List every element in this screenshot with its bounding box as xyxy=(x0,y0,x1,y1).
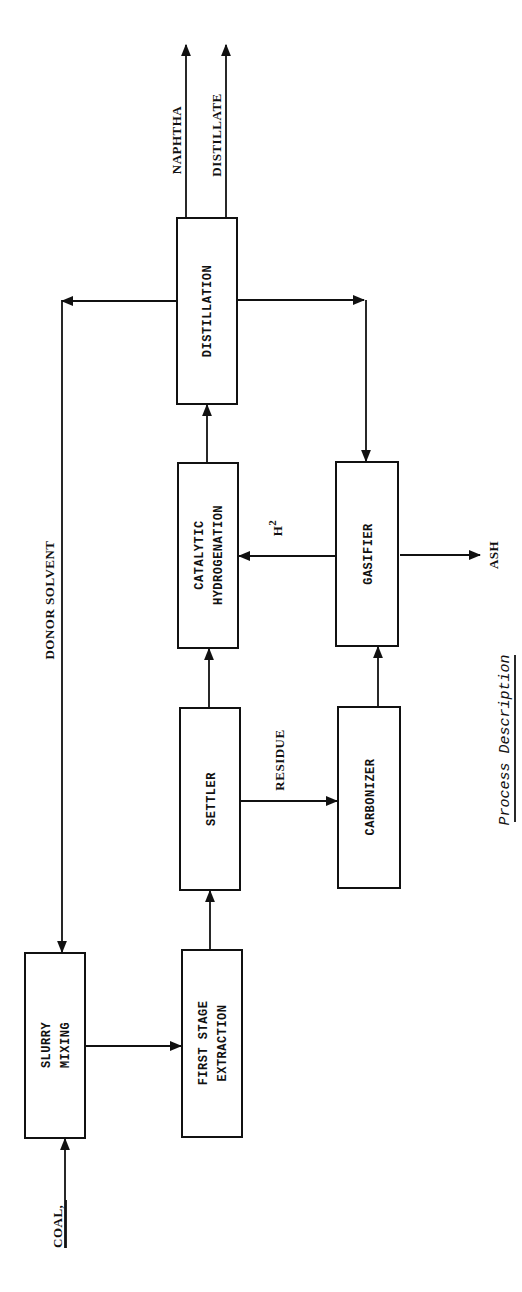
h2-symbol: H xyxy=(270,526,285,537)
unit-first-stage-extraction: FIRST STAGE EXTRACTION xyxy=(182,950,242,1137)
unit-label: DISTILLATION xyxy=(201,265,215,357)
unit-gasifier: GASIFIER xyxy=(336,462,398,646)
unit-label: GASIFIER xyxy=(362,523,376,585)
stream-label-distillate: DISTILLATE xyxy=(209,93,224,177)
stream-label-h2: H2 xyxy=(266,520,285,537)
stream-label-coal: COAL, xyxy=(50,1205,65,1248)
unit-label: EXTRACTION xyxy=(216,1004,230,1081)
unit-label: FIRST STAGE xyxy=(197,1001,211,1086)
process-flow-diagram: SLURRY MIXING FIRST STAGE EXTRACTION SET… xyxy=(0,0,522,1292)
unit-label: HYDROGENATION xyxy=(212,505,226,605)
unit-label: SETTLER xyxy=(205,772,219,826)
h2-subscript: 2 xyxy=(266,520,278,526)
unit-catalytic-hydrogenation: CATALYTIC HYDROGENATION xyxy=(178,463,238,648)
unit-label: SLURRY xyxy=(40,1022,54,1069)
unit-label: CATALYTIC xyxy=(193,520,207,589)
unit-distillation: DISTILLATION xyxy=(177,218,237,404)
donor-solvent-recycle-arrow xyxy=(62,301,177,952)
unit-label: MIXING xyxy=(59,1022,73,1068)
unit-settler: SETTLER xyxy=(180,708,240,890)
stream-label-residue: RESIDUE xyxy=(272,729,287,790)
unit-slurry-mixing: SLURRY MIXING xyxy=(25,953,85,1138)
figure-caption: Process Description xyxy=(497,654,514,825)
stream-label-donor-solvent: DONOR SOLVENT xyxy=(42,540,57,659)
unit-carbonizer: CARBONIZER xyxy=(338,707,400,888)
stream-label-naphtha: NAPHTHA xyxy=(169,106,184,175)
stream-label-ash: ASH xyxy=(486,541,501,569)
unit-label: CARBONIZER xyxy=(364,758,378,835)
